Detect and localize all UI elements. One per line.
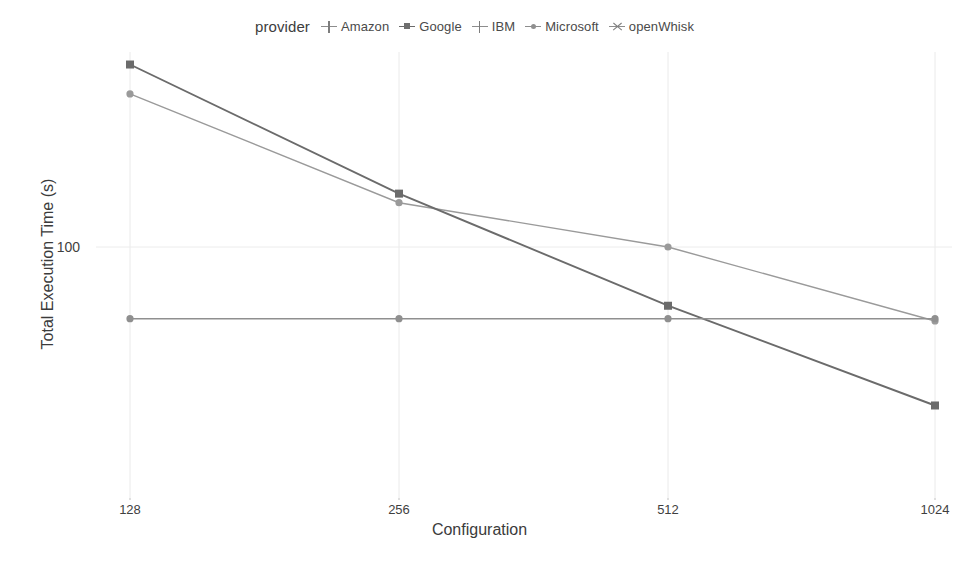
legend-label-openwhisk: openWhisk — [629, 19, 694, 34]
square-icon — [399, 20, 415, 34]
x-tick-label-1024: 1024 — [905, 502, 959, 517]
plus-icon — [472, 20, 488, 34]
x-tick-label-128: 128 — [100, 502, 160, 517]
legend-item-ibm[interactable]: IBM — [472, 19, 515, 34]
series-amazon[interactable] — [126, 90, 938, 324]
chart-legend: provider Amazon Google IBM Microsoft — [0, 18, 959, 35]
x-tick-label-512: 512 — [638, 502, 698, 517]
dot-icon — [525, 20, 541, 34]
legend-label-ibm: IBM — [492, 19, 515, 34]
x-tick-label-256: 256 — [369, 502, 429, 517]
series-line-amazon — [130, 94, 935, 321]
plot-area — [96, 52, 952, 500]
cross-icon — [609, 20, 625, 34]
x-axis-title: Configuration — [0, 521, 959, 539]
y-tick-label-100: 100 — [40, 239, 80, 255]
plot-svg — [96, 52, 952, 500]
plus-dot-icon — [321, 20, 337, 34]
legend-item-google[interactable]: Google — [399, 19, 462, 34]
legend-label-microsoft: Microsoft — [545, 19, 599, 34]
legend-item-openwhisk[interactable]: openWhisk — [609, 19, 694, 34]
legend-label-google: Google — [419, 19, 462, 34]
legend-label-amazon: Amazon — [341, 19, 389, 34]
series-google[interactable] — [126, 61, 939, 410]
series-line-google — [130, 65, 935, 406]
legend-item-microsoft[interactable]: Microsoft — [525, 19, 599, 34]
legend-item-amazon[interactable]: Amazon — [321, 19, 389, 34]
legend-title: provider — [255, 18, 310, 35]
series-microsoft[interactable] — [126, 315, 938, 322]
chart-figure: provider Amazon Google IBM Microsoft — [0, 0, 959, 577]
y-axis-title: Total Execution Time (s) — [39, 154, 57, 374]
